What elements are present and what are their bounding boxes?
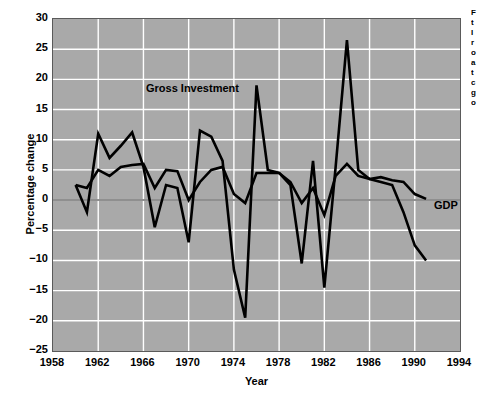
y-tick-label: 25 [4,42,48,53]
x-tick-label: 1990 [391,357,437,368]
side-caption-line: a [471,58,487,68]
series-label-gdp: GDP [434,199,458,211]
side-caption-line: r [471,38,487,48]
chart-canvas [53,19,460,351]
y-tick-label: 5 [4,163,48,174]
y-tick-label: −20 [4,314,48,325]
y-tick-label: −10 [4,253,48,264]
x-tick-label: 1982 [300,357,346,368]
x-tick-label: 1958 [29,357,75,368]
y-tick-label: 30 [4,12,48,23]
plot-area [52,18,461,352]
side-caption-line: I [471,28,487,38]
side-caption-line: t [471,68,487,78]
side-caption: FtIroatcgo [471,8,487,108]
side-caption-line: g [471,88,487,98]
x-tick-label: 1994 [436,357,482,368]
side-caption-line: o [471,48,487,58]
side-caption-line: o [471,98,487,108]
x-tick-label: 1978 [255,357,301,368]
y-tick-label: 20 [4,72,48,83]
side-caption-line: t [471,18,487,28]
y-tick-label: 0 [4,193,48,204]
x-tick-label: 1966 [119,357,165,368]
x-tick-label: 1986 [346,357,392,368]
x-tick-label: 1970 [165,357,211,368]
y-tick-label: 10 [4,133,48,144]
side-caption-line: c [471,78,487,88]
side-caption-line: F [471,8,487,18]
y-tick-label: −15 [4,284,48,295]
x-tick-label: 1974 [210,357,256,368]
y-tick-label: 15 [4,103,48,114]
y-tick-label: −25 [4,344,48,355]
chart-figure: Percentage change −25−20−15−10−505101520… [0,0,487,393]
x-axis-title: Year [52,375,461,387]
series-label-gross-investment: Gross Investment [146,82,239,94]
y-axis-tick-labels: −25−20−15−10−5051015202530 [0,0,48,393]
data-series-group [76,40,426,318]
gridlines [53,19,460,351]
x-tick-label: 1962 [74,357,120,368]
y-tick-label: −5 [4,223,48,234]
